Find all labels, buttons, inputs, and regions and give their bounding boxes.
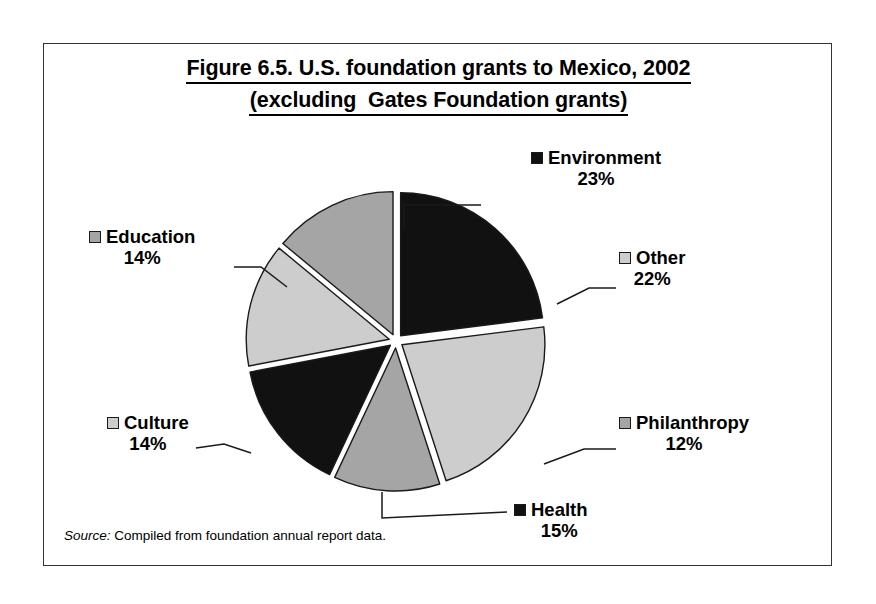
- figure-root: Figure 6.5. U.S. foundation grants to Me…: [0, 0, 876, 604]
- pie-label-education: Education 14%: [89, 226, 195, 269]
- leader-line-other: [557, 288, 616, 304]
- pie-label-other: Other 22%: [619, 247, 685, 290]
- pie-label-culture-name: Culture: [124, 412, 189, 433]
- pie-label-philanthropy-percent: 12%: [619, 433, 749, 454]
- pie-chart-area: Environment 23% Other 22% Philanthropy 1…: [44, 44, 833, 567]
- legend-swatch-health-icon: [514, 504, 526, 516]
- pie-label-education-name: Education: [106, 226, 195, 247]
- legend-swatch-environment-icon: [531, 152, 543, 164]
- pie-slice-group: [246, 192, 545, 491]
- source-note-text: Compiled from foundation annual report d…: [114, 528, 386, 543]
- pie-label-philanthropy: Philanthropy 12%: [619, 412, 749, 455]
- pie-label-other-percent: 22%: [619, 268, 685, 289]
- source-note-label: Source:: [64, 528, 111, 543]
- legend-swatch-other-icon: [619, 252, 631, 264]
- pie-chart-svg: [44, 44, 833, 567]
- pie-label-environment-name: Environment: [548, 147, 661, 168]
- pie-label-health-name: Health: [531, 499, 588, 520]
- leader-line-philanthropy: [544, 449, 616, 464]
- leader-line-culture: [196, 444, 251, 453]
- pie-label-environment: Environment 23%: [531, 147, 661, 190]
- pie-label-health: Health 15%: [514, 499, 588, 542]
- pie-label-health-percent: 15%: [514, 520, 588, 541]
- pie-label-culture: Culture 14%: [107, 412, 189, 455]
- pie-label-philanthropy-name: Philanthropy: [636, 412, 749, 433]
- legend-swatch-philanthropy-icon: [619, 417, 631, 429]
- pie-label-education-percent: 14%: [89, 247, 195, 268]
- legend-swatch-education-icon: [89, 231, 101, 243]
- source-note: Source: Compiled from foundation annual …: [64, 528, 386, 543]
- pie-slice-environment: [401, 193, 543, 336]
- pie-label-other-name: Other: [636, 247, 685, 268]
- pie-label-culture-percent: 14%: [107, 433, 189, 454]
- figure-frame: Figure 6.5. U.S. foundation grants to Me…: [43, 43, 832, 566]
- pie-label-environment-percent: 23%: [531, 168, 661, 189]
- leader-line-health: [382, 492, 507, 518]
- legend-swatch-culture-icon: [107, 417, 119, 429]
